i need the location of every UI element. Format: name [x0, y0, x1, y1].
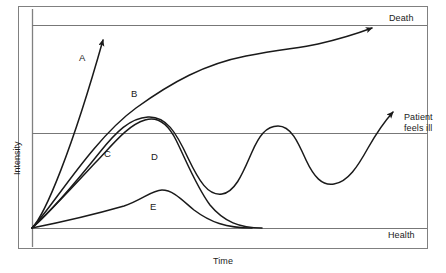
curve-label-d: D	[151, 152, 158, 162]
x-axis-label: Time	[213, 256, 233, 266]
label-death: Death	[389, 13, 414, 23]
curve-d-path	[32, 119, 262, 228]
y-axis-label: Intensity	[12, 141, 22, 175]
illness-trajectory-figure: Death Patient feels ill Health A B C D E…	[0, 0, 446, 273]
label-health: Health	[388, 230, 415, 240]
curve-label-e: E	[150, 202, 156, 212]
curve-c-path	[32, 112, 393, 228]
figure-frame	[19, 7, 428, 249]
curve-label-c: C	[104, 149, 111, 159]
label-patient-feels-ill-line1: Patient	[404, 112, 433, 122]
curve-label-a: A	[79, 53, 85, 63]
label-patient-feels-ill-line2: feels ill	[404, 123, 432, 133]
diagram-canvas	[0, 0, 446, 273]
curve-label-b: B	[131, 89, 137, 99]
